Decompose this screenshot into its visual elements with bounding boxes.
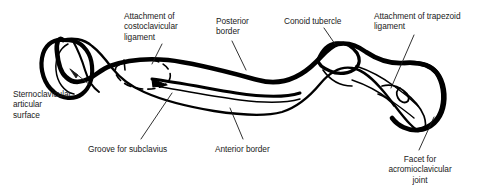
- clavicle-figure: Attachment of costoclavicular ligament P…: [0, 0, 485, 195]
- leader-sternoclavicular-arrowhead: [70, 69, 78, 78]
- label-sternoclavicular-articular-surface: Sternoclavicular articular surface: [13, 89, 93, 120]
- label-attachment-trapezoid-ligament: Attachment of trapezoid ligament: [374, 11, 484, 32]
- costoclavicular-impression-tick: [124, 60, 125, 70]
- label-groove-for-subclavius: Groove for subclavius: [88, 144, 188, 154]
- acromioclavicular-facet: [404, 92, 426, 130]
- leader-lines: [70, 28, 434, 150]
- subclavian-groove-lower-line: [156, 86, 300, 102]
- label-attachment-costoclavicular-ligament: Attachment of costoclavicular ligament: [124, 11, 208, 42]
- label-facet-for-acromioclavicular-joint: Facet for acromioclavicular joint: [374, 154, 466, 185]
- leader-acromioclavicular: [419, 117, 434, 150]
- leader-conoid-tubercle: [324, 28, 335, 44]
- acromial-end-outline: [392, 63, 444, 130]
- label-anterior-border: Anterior border: [215, 144, 291, 154]
- label-posterior-border: Posterior border: [216, 16, 274, 37]
- leader-anterior-border: [230, 108, 243, 139]
- leader-groove-subclavius: [141, 93, 172, 139]
- label-conoid-tubercle: Conoid tubercle: [284, 16, 364, 26]
- leader-posterior-border: [232, 41, 246, 70]
